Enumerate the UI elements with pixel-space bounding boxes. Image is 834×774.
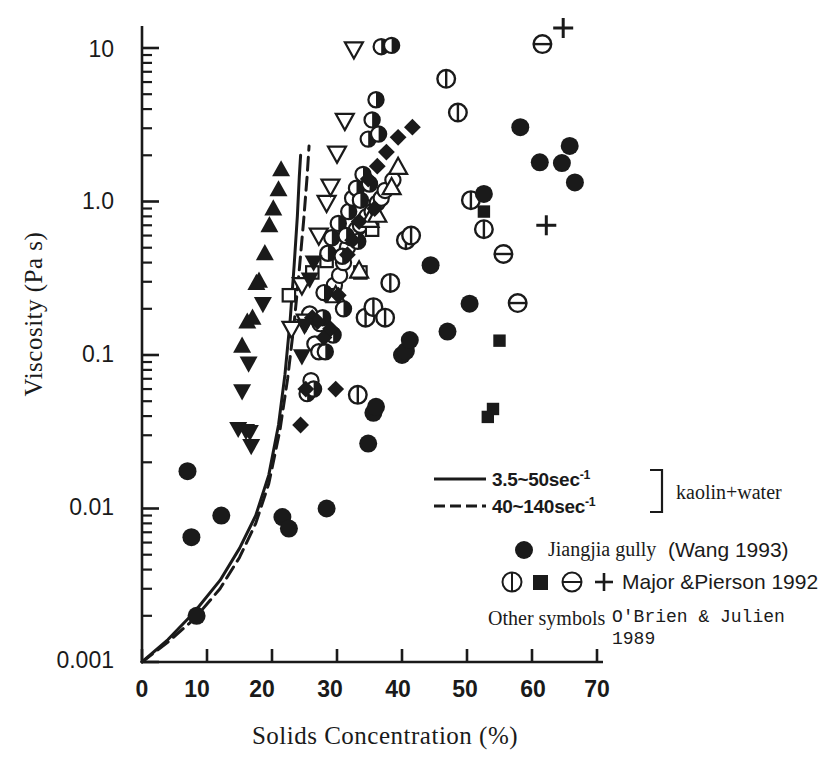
data-point-filled-square (482, 411, 494, 423)
data-point-circle-hsplit (495, 245, 513, 263)
data-point-filled-diamond (369, 158, 386, 175)
data-point-filled-triangle-up (233, 336, 251, 352)
data-point-open-triangle-down (336, 114, 354, 130)
data-point-filled-diamond (404, 119, 421, 136)
data-point-filled-circle (531, 153, 549, 171)
data-point-open-triangle-down (283, 322, 301, 338)
data-point-half-circle (316, 285, 331, 300)
data-point-filled-circle (422, 256, 440, 274)
legend-symbol-filled-square-icon (530, 572, 552, 594)
data-point-filled-triangle-down (293, 349, 311, 365)
data-point-filled-circle (188, 607, 206, 625)
data-point-open-triangle-down (328, 147, 346, 163)
legend-line-solid-icon (432, 470, 488, 488)
legend-label-obrien-julien-year: 1989 (612, 629, 655, 649)
data-point-filled-circle (367, 398, 385, 416)
data-point-filled-circle (280, 520, 298, 538)
data-point-filled-circle (318, 500, 336, 518)
data-point-half-circle (384, 38, 399, 53)
data-point-filled-diamond (292, 417, 309, 434)
figure-container: Viscosity (Pa s) Solids Concentration (%… (0, 0, 834, 774)
legend-symbol-plus-icon (592, 570, 616, 594)
legend-label-dashed-rate: 40~140sec-1 (492, 495, 595, 518)
data-point-open-triangle-up (389, 158, 407, 174)
data-point-filled-triangle-up (272, 160, 290, 176)
data-point-open-triangle-down (318, 196, 336, 212)
legend-bracket-icon (648, 468, 668, 514)
legend-label-obrien-julien: O'Brien & Julien (612, 607, 785, 627)
data-point-filled-circle (439, 323, 457, 341)
data-point-half-circle (324, 230, 339, 245)
legend-label-other-symbols: Other symbols (488, 607, 605, 630)
scatter-plot-area (0, 0, 834, 774)
data-point-filled-circle (553, 154, 571, 172)
data-point-filled-triangle-down (242, 439, 260, 455)
data-point-filled-square (478, 205, 490, 217)
data-point-filled-circle (179, 462, 197, 480)
data-point-filled-circle (475, 185, 493, 203)
data-point-filled-triangle-up (260, 216, 278, 232)
data-point-plus (553, 18, 573, 38)
legend-label-major-pierson: Major &Pierson 1992 (622, 570, 818, 594)
data-point-half-circle (353, 193, 368, 208)
data-point-filled-diamond (390, 129, 407, 146)
data-point-half-circle (368, 92, 383, 107)
data-point-half-circle (318, 344, 333, 359)
data-point-plus (536, 215, 556, 235)
data-point-filled-diamond (327, 381, 344, 398)
data-point-filled-circle (566, 173, 584, 191)
data-point-filled-circle (359, 435, 377, 453)
data-point-filled-triangle-up (264, 199, 282, 215)
data-point-filled-circle (401, 331, 419, 349)
legend-label-solid-rate: 3.5~50sec-1 (492, 468, 590, 491)
data-point-filled-circle (182, 528, 200, 546)
data-point-filled-triangle-down (233, 384, 251, 400)
data-point-circle-vsplit (376, 309, 394, 327)
legend-label-jiangjia: Jiangjia gully (548, 538, 656, 561)
data-point-open-triangle-down (322, 180, 340, 196)
data-point-circle-vsplit (382, 274, 400, 292)
data-point-circle-hsplit (509, 294, 527, 312)
data-point-circle-vsplit (402, 227, 420, 245)
data-point-half-circle (320, 246, 335, 261)
data-point-filled-circle (212, 507, 230, 525)
data-point-filled-circle (561, 137, 579, 155)
legend-symbol-filled-circle-icon (513, 539, 535, 561)
data-point-filled-diamond (378, 144, 395, 161)
legend-label-kaolin-water: kaolin+water (676, 481, 782, 504)
data-point-filled-triangle-down (254, 297, 272, 313)
data-point-filled-circle (511, 118, 529, 136)
data-point-half-circle (365, 112, 380, 127)
data-point-half-circle (371, 126, 386, 141)
legend-line-dashed-icon (432, 497, 488, 515)
data-point-circle-vsplit (449, 104, 467, 122)
data-point-circle-vsplit (349, 386, 367, 404)
curve-dashed-40-140 (142, 146, 309, 662)
data-point-circle-vsplit (437, 70, 455, 88)
data-point-open-square (283, 289, 295, 301)
data-point-open-triangle-down (345, 42, 363, 58)
data-point-circle-hsplit (534, 35, 552, 53)
legend-symbol-circle-hsplit-icon (560, 570, 584, 594)
legend-symbol-circle-vsplit-icon (500, 570, 524, 594)
data-point-filled-square (493, 334, 505, 346)
legend-label-jiangjia-ref: (Wang 1993) (668, 538, 789, 562)
data-point-filled-triangle-down (240, 357, 258, 373)
data-point-filled-triangle-up (270, 180, 288, 196)
data-point-filled-circle (461, 295, 479, 313)
data-point-filled-triangle-up (256, 244, 274, 260)
data-point-circle-vsplit (475, 220, 493, 238)
